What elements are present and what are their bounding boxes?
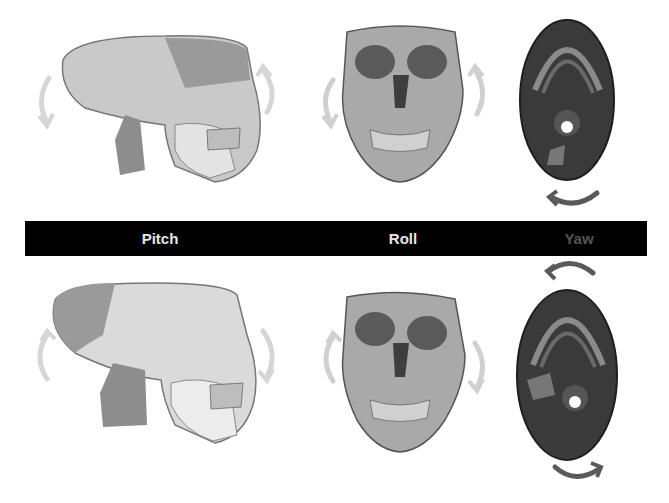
skull-frontal-icon bbox=[343, 292, 465, 452]
roll-top-skull-view bbox=[305, 20, 495, 195]
rotate-arrow-icon bbox=[259, 331, 273, 381]
axis-label-bar: Pitch Roll Yaw bbox=[25, 221, 647, 256]
rotate-arrow-icon bbox=[469, 343, 483, 391]
rotate-arrow-icon bbox=[547, 263, 593, 279]
skull-frontal-icon bbox=[343, 26, 463, 182]
pitch-bottom-skull-view bbox=[25, 275, 295, 460]
pitch-top-skull-view bbox=[25, 30, 295, 200]
roll-label: Roll bbox=[363, 221, 443, 256]
pitch-label: Pitch bbox=[120, 221, 200, 256]
rotate-arrow-icon bbox=[549, 191, 597, 205]
rotate-arrow-icon bbox=[469, 66, 483, 114]
rotate-arrow-icon bbox=[323, 80, 337, 126]
skull-inferior-icon bbox=[520, 20, 614, 180]
rotate-arrow-icon bbox=[39, 78, 53, 126]
yaw-bottom-skull-view bbox=[505, 255, 635, 495]
rotate-arrow-icon bbox=[555, 463, 601, 477]
roll-bottom-skull-view bbox=[305, 285, 495, 470]
skull-inferior-icon bbox=[517, 290, 617, 460]
skull-lateral-icon bbox=[53, 283, 256, 443]
yaw-top-skull-view bbox=[505, 15, 635, 215]
skull-lateral-icon bbox=[62, 36, 260, 182]
rotate-arrow-icon bbox=[326, 333, 341, 381]
yaw-label: Yaw bbox=[539, 221, 619, 256]
rotate-arrow-icon bbox=[40, 331, 55, 379]
